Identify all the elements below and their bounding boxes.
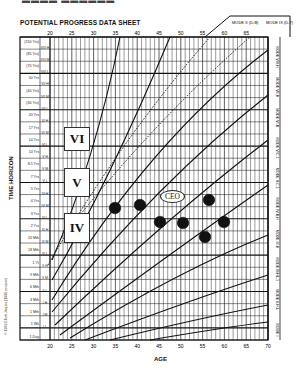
svg-text:35: 35	[113, 30, 119, 36]
svg-text:MODE I: MODE I	[275, 324, 279, 337]
svg-text:60: 60	[222, 343, 228, 349]
svg-text:IV H: IV H	[42, 192, 49, 196]
svg-text:50 Yrs: 50 Yrs	[29, 76, 40, 80]
svg-text:20 Mth: 20 Mth	[28, 236, 39, 240]
svg-text:1 Mth: 1 Mth	[30, 310, 39, 314]
svg-text:55: 55	[200, 343, 206, 349]
region-label-v: V	[64, 168, 90, 197]
svg-text:MODE V/C-1: MODE V/C-1	[275, 138, 279, 159]
svg-text:3 Yrs: 3 Yrs	[31, 212, 40, 216]
svg-text:6 Mth: 6 Mth	[30, 285, 39, 289]
svg-text:I H: I H	[43, 301, 48, 305]
svg-text:25: 25	[69, 30, 75, 36]
svg-text:2 Yrs: 2 Yrs	[31, 224, 40, 228]
svg-text:40: 40	[134, 30, 140, 36]
svg-text:II M: II M	[42, 276, 48, 280]
svg-text:50: 50	[178, 30, 184, 36]
svg-text:VIII L: VIII L	[41, 70, 49, 74]
svg-text:1 Day: 1 Day	[30, 335, 40, 339]
svg-text:50: 50	[178, 343, 184, 349]
svg-text:MODE IV-B-H: MODE IV-B-H	[275, 197, 279, 220]
svg-text:(85 Yrs): (85 Yrs)	[26, 52, 39, 56]
svg-text:MODE III-H: MODE III-H	[275, 230, 279, 249]
svg-text:(150 Yrs): (150 Yrs)	[24, 40, 39, 44]
svg-text:VI H: VI H	[42, 119, 49, 123]
svg-text:25: 25	[69, 343, 75, 349]
svg-text:V L: V L	[42, 179, 47, 183]
svg-text:9 Mth: 9 Mth	[30, 273, 39, 277]
svg-text:I M: I M	[43, 313, 48, 317]
svg-text:IV L: IV L	[42, 216, 48, 220]
svg-text:(40 Yrs): (40 Yrs)	[26, 89, 39, 93]
svg-text:MODE II-H-L: MODE II-H-L	[275, 289, 279, 310]
svg-text:III H: III H	[42, 228, 49, 232]
svg-text:VII M: VII M	[41, 95, 49, 99]
ceo-label: CEO	[160, 190, 185, 203]
svg-text:60: 60	[222, 30, 228, 36]
svg-text:5 Yrs: 5 Yrs	[31, 187, 40, 191]
chart-canvas: (150 Yrs)(85 Yrs)(70 Yrs)50 Yrs(40 Yrs)(…	[0, 0, 306, 375]
copyright-note: © 1983 Elliott Jaques (1991 revision)	[4, 278, 8, 335]
svg-text:17 Yrs: 17 Yrs	[29, 126, 40, 130]
svg-text:70: 70	[265, 343, 271, 349]
x-axis-title: AGE	[154, 356, 167, 362]
svg-text:40: 40	[134, 343, 140, 349]
svg-text:III L: III L	[42, 252, 48, 256]
svg-text:4 Yrs: 4 Yrs	[31, 199, 40, 203]
svg-text:VII L: VII L	[42, 107, 49, 111]
svg-text:V M: V M	[42, 167, 48, 171]
svg-text:1 Wk: 1 Wk	[31, 322, 39, 326]
svg-text:VIII M: VIII M	[41, 58, 50, 62]
svg-text:30: 30	[91, 30, 97, 36]
svg-text:45: 45	[156, 343, 162, 349]
svg-text:MODE VI-B: MODE VI-B	[275, 108, 279, 127]
svg-text:45: 45	[156, 30, 162, 36]
y-axis-title: TIME HORIZON	[8, 156, 14, 200]
svg-text:VII H: VII H	[41, 82, 49, 86]
svg-text:III M: III M	[42, 240, 49, 244]
svg-text:3 Mth: 3 Mth	[30, 298, 39, 302]
svg-text:20: 20	[47, 343, 53, 349]
svg-text:10 Yrs: 10 Yrs	[29, 150, 40, 154]
region-label-iv: IV	[64, 213, 90, 243]
svg-text:II H: II H	[42, 264, 48, 268]
svg-text:VI L: VI L	[42, 143, 48, 147]
svg-text:V H: V H	[42, 155, 48, 159]
svg-text:I L: I L	[43, 325, 47, 329]
svg-text:18 Mth: 18 Mth	[28, 248, 39, 252]
svg-text:30: 30	[91, 343, 97, 349]
svg-text:35: 35	[113, 343, 119, 349]
svg-text:MODE VIII-H: MODE VIII-H	[275, 47, 279, 68]
svg-text:(70 Yrs): (70 Yrs)	[26, 64, 39, 68]
svg-text:65: 65	[243, 30, 249, 36]
svg-text:65: 65	[243, 343, 249, 349]
svg-text:55: 55	[200, 30, 206, 36]
svg-text:VIII H: VIII H	[41, 46, 50, 50]
svg-text:II L: II L	[43, 289, 48, 293]
svg-text:20 Yrs: 20 Yrs	[29, 113, 40, 117]
svg-text:(30 Yrs): (30 Yrs)	[26, 101, 39, 105]
svg-text:MODE V-C-1: MODE V-C-1	[275, 168, 279, 189]
svg-text:IV M: IV M	[42, 204, 49, 208]
svg-text:1 Yr: 1 Yr	[32, 261, 39, 265]
svg-text:14 Yrs: 14 Yrs	[29, 138, 40, 142]
svg-text:7 Yrs: 7 Yrs	[31, 175, 40, 179]
svg-text:MODE VII-H: MODE VII-H	[275, 77, 279, 97]
svg-text:20: 20	[47, 30, 53, 36]
svg-text:MODE X (D-B): MODE X (D-B)	[232, 20, 259, 25]
svg-text:8.5 Yrs: 8.5 Yrs	[28, 162, 40, 166]
svg-text:MODE III/HL-1: MODE III/HL-1	[275, 258, 279, 282]
svg-text:VI M: VI M	[42, 131, 49, 135]
svg-text:MODE IX (D-7): MODE IX (D-7)	[266, 20, 294, 25]
region-label-vi: VI	[64, 127, 90, 151]
